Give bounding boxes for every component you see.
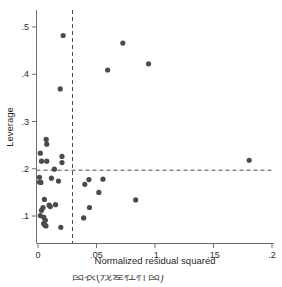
data-points	[37, 33, 252, 230]
leverage-vs-residual-scatter-figure: 0.05.1.15.2 .1.2.3.4.5 Normalized residu…	[0, 0, 282, 287]
y-tick-label: .3	[21, 117, 29, 127]
scatter-point	[44, 137, 49, 142]
y-tick-label: .2	[21, 164, 29, 174]
x-axis-title: Normalized residual squared	[95, 255, 216, 266]
scatter-point	[52, 167, 57, 172]
scatter-point	[105, 67, 110, 72]
scatter-point	[81, 215, 86, 220]
scatter-point	[44, 159, 49, 164]
scatter-point	[48, 204, 53, 209]
scatter-plot-canvas: 0.05.1.15.2 .1.2.3.4.5 Normalized residu…	[0, 0, 282, 287]
scatter-point	[38, 151, 43, 156]
scatter-point	[86, 177, 91, 182]
y-axis-title: Leverage	[4, 107, 15, 147]
scatter-point	[44, 142, 49, 147]
y-axis-ticks: .1.2.3.4.5	[21, 22, 36, 221]
scatter-point	[247, 158, 252, 163]
x-tick-label: 0	[35, 250, 40, 260]
scatter-point	[59, 160, 64, 165]
x-tick-label: .2	[268, 250, 276, 260]
scatter-point	[43, 223, 48, 228]
scatter-point	[42, 197, 47, 202]
y-tick-label: .1	[21, 211, 29, 221]
scatter-point	[49, 176, 54, 181]
scatter-point	[96, 190, 101, 195]
scatter-point	[133, 197, 138, 202]
reference-lines	[37, 10, 275, 244]
scatter-point	[37, 175, 42, 180]
scatter-point	[38, 180, 43, 185]
scatter-point	[100, 177, 105, 182]
y-tick-label: .4	[21, 69, 29, 79]
scatter-point	[87, 205, 92, 210]
scatter-point	[56, 178, 61, 183]
scatter-point	[82, 182, 87, 187]
figure-caption-clipped: 图表(残差杠杆图)	[0, 275, 282, 287]
scatter-point	[59, 154, 64, 159]
scatter-point	[120, 40, 125, 45]
scatter-point	[39, 208, 44, 213]
scatter-point	[58, 86, 63, 91]
scatter-point	[58, 225, 63, 230]
scatter-point	[61, 33, 66, 38]
scatter-point	[39, 159, 44, 164]
y-tick-label: .5	[21, 22, 29, 32]
figure-caption-text: 图表(残差杠杆图)	[72, 275, 164, 283]
scatter-point	[53, 202, 58, 207]
scatter-point	[146, 61, 151, 66]
